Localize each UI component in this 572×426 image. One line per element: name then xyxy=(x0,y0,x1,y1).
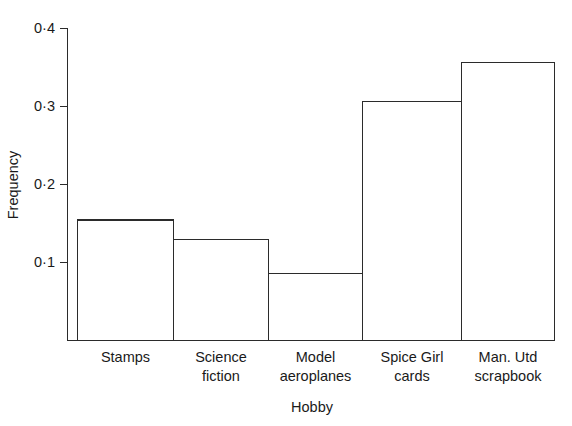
bar-science-fiction[interactable] xyxy=(174,239,269,340)
cat-label-spice-line1: Spice Girl xyxy=(381,349,444,365)
cat-label-model-line1: Model xyxy=(296,349,336,365)
y-tick-label-0.2: 0·2 xyxy=(34,176,55,192)
cat-label-stamps-line1: Stamps xyxy=(101,349,150,365)
y-axis-ticks xyxy=(60,29,68,263)
y-tick-label-0.3: 0·3 xyxy=(34,98,55,114)
bar-man-utd-scrapbook[interactable] xyxy=(462,62,555,340)
y-tick-label-0.4: 0·4 xyxy=(34,20,55,36)
y-tick-label-0.1: 0·1 xyxy=(34,254,55,270)
bar-stamps[interactable] xyxy=(78,220,174,341)
x-axis-category-labels: Stamps Science fiction Model aeroplanes … xyxy=(101,349,542,384)
cat-label-science-line1: Science xyxy=(195,349,247,365)
cat-label-manutd-line2: scrapbook xyxy=(475,368,543,384)
y-axis-tick-labels: 0·4 0·3 0·2 0·1 xyxy=(34,20,55,270)
bar-model-aeroplanes[interactable] xyxy=(269,274,363,341)
bar-group xyxy=(78,62,555,340)
y-axis-title: Frequency xyxy=(5,150,21,219)
cat-label-spice-line2: cards xyxy=(394,368,429,384)
chart-canvas: 0·4 0·3 0·2 0·1 Frequency Stamps Science… xyxy=(0,0,572,426)
x-axis-title: Hobby xyxy=(291,399,334,415)
cat-label-science-line2: fiction xyxy=(202,368,240,384)
cat-label-manutd-line1: Man. Utd xyxy=(479,349,538,365)
cat-label-model-line2: aeroplanes xyxy=(280,368,352,384)
bar-spice-girl-cards[interactable] xyxy=(363,101,462,340)
histogram-chart: 0·4 0·3 0·2 0·1 Frequency Stamps Science… xyxy=(0,0,572,426)
